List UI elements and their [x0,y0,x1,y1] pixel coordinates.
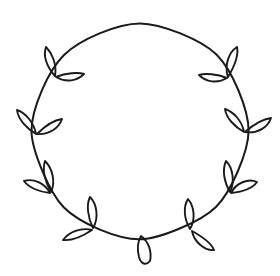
background-rect [0,0,280,276]
leaf-wreath-illustration [0,0,280,276]
artboard [0,0,280,276]
